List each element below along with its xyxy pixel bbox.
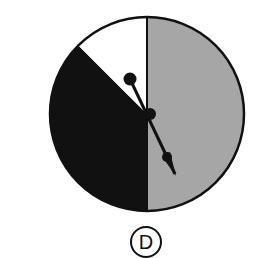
gray-section (147, 17, 244, 211)
option-label: D (130, 226, 162, 258)
